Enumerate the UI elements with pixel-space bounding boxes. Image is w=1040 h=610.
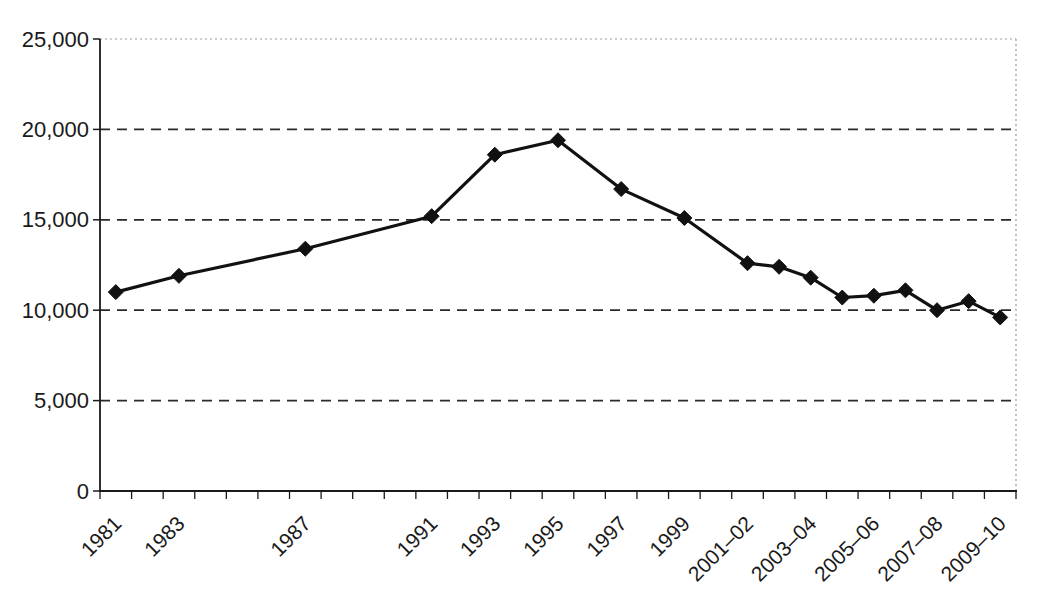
data-point-marker — [835, 290, 850, 305]
x-axis-tick-label: 1995 — [519, 512, 568, 561]
y-axis-tick-label: 20,000 — [22, 117, 89, 142]
y-axis-tick-label: 15,000 — [22, 207, 89, 232]
data-point-marker — [866, 288, 881, 303]
data-point-marker — [108, 285, 123, 300]
x-axis-tick-label: 1991 — [392, 512, 441, 561]
x-axis-tick-label: 2003–04 — [746, 511, 820, 585]
data-point-marker — [898, 283, 913, 298]
data-point-marker — [803, 270, 818, 285]
data-point-marker — [772, 259, 787, 274]
x-axis-tick-label: 2005–06 — [810, 512, 884, 586]
y-axis-tick-label: 10,000 — [22, 298, 89, 323]
data-point-marker — [993, 310, 1008, 325]
data-point-marker — [930, 303, 945, 318]
data-point-marker — [961, 294, 976, 309]
x-axis-tick-label: 2007–08 — [873, 512, 947, 586]
x-axis-tick-label: 1999 — [645, 512, 694, 561]
y-axis-tick-label: 25,000 — [22, 27, 89, 52]
data-series-line — [116, 140, 1000, 317]
y-axis-tick-label: 0 — [77, 479, 89, 504]
x-axis-tick-label: 1987 — [266, 512, 315, 561]
x-axis-tick-label: 1983 — [139, 512, 188, 561]
x-axis-tick-label: 1993 — [455, 512, 504, 561]
x-axis-tick-label: 1997 — [582, 512, 631, 561]
data-point-marker — [171, 268, 186, 283]
x-axis-tick-label: 2001–02 — [683, 512, 757, 586]
y-axis-tick-label: 5,000 — [34, 388, 89, 413]
x-axis-tick-label: 1981 — [76, 512, 125, 561]
line-chart: 05,00010,00015,00020,00025,0001981198319… — [0, 0, 1040, 610]
data-point-marker — [298, 241, 313, 256]
chart-svg: 05,00010,00015,00020,00025,0001981198319… — [0, 0, 1040, 610]
x-axis-tick-label: 2009–10 — [936, 512, 1010, 586]
